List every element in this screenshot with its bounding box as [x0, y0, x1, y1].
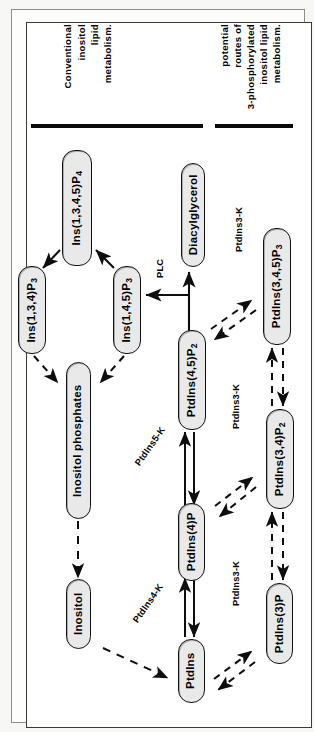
- node-inositol-phosphates-label: Inositol phosphates: [72, 384, 84, 496]
- node-ptdins[interactable]: PtdIns: [178, 639, 205, 703]
- node-ins145p3-label: Ins(1,4,5)P: [120, 283, 132, 343]
- arrow-ptdins-to-ptdins3p: [214, 651, 252, 679]
- node-ptdins34p2[interactable]: PtdIns(3,4)P2: [266, 409, 294, 509]
- node-ptdins-label: PtdIns: [185, 653, 197, 689]
- node-ptdins4p[interactable]: PtdIns(4)P: [178, 503, 205, 581]
- arrow-ins1345p4-to-ins134p3: [43, 250, 60, 268]
- node-ins134p3[interactable]: Ins(1,3,4)P3: [18, 266, 46, 354]
- node-ins145p3[interactable]: Ins(1,4,5)P3: [113, 266, 141, 354]
- arrow-ptdins3p-to-ptdins: [218, 662, 255, 690]
- arrow-ptdins45p2-to-ins145p3: [146, 295, 189, 333]
- node-diacylglycerol-label: Diacylglycerol: [186, 175, 198, 256]
- arrow-ptdins345p3-to-ptdins45p2: [214, 310, 256, 340]
- node-ins1345p4-label: Ins(1,3,4,5)P: [70, 176, 82, 246]
- node-ins134p3-sub: 3: [29, 278, 39, 283]
- node-ptdins34p2-sub: 2: [277, 422, 287, 427]
- node-ptdins34p2-label: PtdIns(3,4)P: [273, 427, 285, 496]
- node-ptdins4p-label: PtdIns(4)P: [185, 513, 197, 572]
- node-diacylglycerol[interactable]: Diacylglycerol: [181, 163, 205, 267]
- node-inositol-label: Inositol: [72, 593, 84, 636]
- enzyme-label-ptdins3k-mid: PtdIns3-K: [231, 384, 241, 429]
- node-inositol-phosphates[interactable]: Inositol phosphates: [66, 362, 91, 519]
- arrow-ins145p3-to-inositol-phosphates: [100, 356, 124, 383]
- node-ptdins3p-label: PtdIns(3)P: [273, 594, 285, 653]
- node-ins1345p4-sub: 4: [74, 171, 84, 176]
- node-ins134p3-label: Ins(1,3,4)P: [25, 283, 37, 343]
- node-ptdins345p3-label: PtdIns(3,4,5)P: [270, 250, 282, 329]
- node-ins145p3-sub: 3: [124, 278, 134, 283]
- node-ptdins45p2-label: PtdIns(4,5)P: [185, 348, 197, 417]
- node-ins1345p4[interactable]: Ins(1,3,4,5)P4: [62, 150, 92, 266]
- node-ptdins3p[interactable]: PtdIns(3)P: [266, 583, 293, 664]
- enzyme-label-ptdins3k-bottom: PtdIns3-K: [231, 561, 241, 606]
- arrow-ptdins4p-to-ptdins34p2: [215, 477, 253, 506]
- figure-page: Conventional inositol lipid metabolism. …: [0, 0, 314, 732]
- node-ptdins45p2-sub: 2: [189, 343, 199, 348]
- node-ptdins345p3-sub: 3: [274, 245, 284, 250]
- arrow-ins145p3-to-ins1345p4: [96, 250, 114, 268]
- arrow-ptdins34p2-to-ptdins4p: [219, 487, 256, 517]
- enzyme-label-ptdins3k-top: PtdIns3-K: [234, 207, 244, 252]
- enzyme-label-plc: PLC: [155, 259, 165, 278]
- node-ptdins345p3[interactable]: PtdIns(3,4,5)P3: [263, 228, 291, 345]
- node-ptdins45p2[interactable]: PtdIns(4,5)P2: [178, 330, 206, 430]
- arrow-ptdins45p2-to-ptdins345p3: [211, 300, 252, 329]
- arrow-inositol-to-ptdins: [103, 648, 168, 678]
- node-inositol[interactable]: Inositol: [66, 579, 91, 649]
- arrow-ins134p3-to-inositol-phosphates: [34, 356, 58, 383]
